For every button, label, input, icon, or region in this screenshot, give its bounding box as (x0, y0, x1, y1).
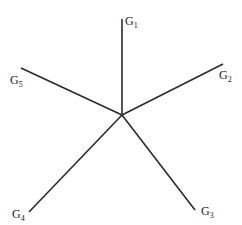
branch-labels: G1G2G3G4G5 (10, 14, 232, 223)
branch-label-g3: G3 (201, 204, 214, 220)
branch-lines (21, 19, 223, 212)
branch-line-g3 (122, 115, 195, 210)
branch-line-g5 (21, 68, 122, 115)
branch-label-g4: G4 (12, 207, 25, 223)
branch-line-g4 (29, 115, 122, 212)
branch-label-g2: G2 (219, 68, 232, 84)
branch-line-g2 (122, 64, 223, 115)
star-diagram: G1G2G3G4G5 (0, 0, 242, 225)
branch-label-g1: G1 (125, 14, 138, 30)
branch-label-g5: G5 (10, 73, 23, 89)
